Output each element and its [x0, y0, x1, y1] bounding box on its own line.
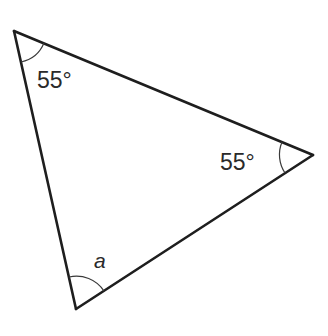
angle-arc-top-left: [21, 43, 44, 62]
angle-arc-right: [279, 142, 285, 173]
edge-top: [14, 31, 313, 155]
angle-label-top-left: 55°: [37, 67, 72, 93]
angle-label-bottom: a: [94, 249, 106, 272]
angle-arc-bottom: [69, 276, 104, 291]
angle-label-right: 55°: [220, 149, 255, 175]
triangle-diagram: 55° 55° a: [0, 0, 328, 336]
edge-right: [76, 155, 313, 309]
